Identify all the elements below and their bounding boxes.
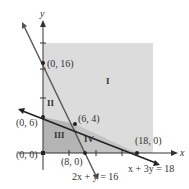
point-label: (0, 6) xyxy=(16,117,38,129)
vertex-0-0 xyxy=(41,151,45,155)
y-axis-label: y xyxy=(39,8,45,19)
x-axis-arrow-icon xyxy=(171,150,178,156)
x-axis-label: x xyxy=(179,147,185,158)
vertex-0-6 xyxy=(41,115,45,119)
point-label: (18, 0) xyxy=(135,135,162,147)
vertex-18-0 xyxy=(135,151,139,155)
y-axis-arrow-icon xyxy=(40,20,46,27)
region-label-i: I xyxy=(106,76,110,86)
vertex-6-4 xyxy=(73,122,77,126)
region-label-ii: II xyxy=(47,98,55,108)
point-label: (0, 0) xyxy=(16,149,38,161)
vertex-0-16 xyxy=(41,61,45,65)
point-label: (0, 16) xyxy=(47,58,74,70)
point-label: (8, 0) xyxy=(61,156,83,168)
equation-label-x-3y: x + 3y = 18 xyxy=(128,163,174,174)
region-label-iii: III xyxy=(54,130,65,140)
region-label-iv: IV xyxy=(84,134,95,144)
arrow-icon xyxy=(18,108,25,114)
equation-label-2x-y: 2x + y = 16 xyxy=(72,171,118,182)
point-label: (6, 4) xyxy=(78,113,100,125)
vertex-8-0 xyxy=(83,151,87,155)
lp-region-diagram: y x (0, 16) (0, 6) (6, 4) (0, 0) (8, 0) … xyxy=(0,0,189,189)
